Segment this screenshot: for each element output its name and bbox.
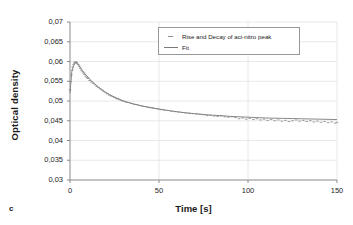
y-tick-label: 0,045: [29, 116, 63, 125]
y-tick-label: 0,06: [29, 57, 63, 66]
y-tick-label: 0,03: [29, 175, 63, 184]
legend-item-series-1: Fit: [163, 42, 295, 53]
x-axis-title: Time [s]: [0, 203, 353, 214]
x-tick-label: 150: [324, 186, 350, 195]
y-tick-label: 0,05: [29, 96, 63, 105]
figure-panel: Optical density Time [s] c Rise and Deca…: [0, 0, 353, 225]
x-tick-label: 50: [146, 186, 172, 195]
series-line-fit: [70, 63, 337, 120]
legend-line-icon: [163, 44, 179, 52]
legend-marker-icon: [163, 33, 179, 41]
chart-legend: Rise and Decay of aci-nitro peak Fit: [158, 27, 300, 55]
y-tick-label: 0,07: [29, 17, 63, 26]
y-tick-label: 0,04: [29, 136, 63, 145]
x-axis-title-text: Time [s]: [175, 203, 211, 214]
series-points-aci-nitro: [69, 62, 339, 123]
y-axis-title: Optical density: [6, 45, 22, 165]
legend-label-series-1: Fit: [182, 44, 189, 51]
y-tick-label: 0,055: [29, 76, 63, 85]
legend-label-series-0: Rise and Decay of aci-nitro peak: [182, 33, 271, 40]
x-tick-label: 100: [235, 186, 261, 195]
panel-label: c: [9, 204, 13, 213]
legend-item-series-0: Rise and Decay of aci-nitro peak: [163, 31, 295, 42]
y-axis-title-text: Optical density: [9, 69, 20, 140]
y-tick-label: 0,035: [29, 155, 63, 164]
y-tick-label: 0,065: [29, 37, 63, 46]
x-tick-label: 0: [57, 186, 83, 195]
